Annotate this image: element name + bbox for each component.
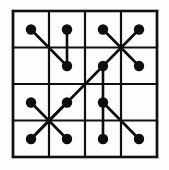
dot-grid-diagram: [0, 0, 169, 170]
node-dot-r1c1: [26, 24, 36, 34]
diagram-canvas: [0, 0, 169, 170]
node-dot-r2c3: [98, 61, 108, 71]
node-dot-r3c2: [62, 97, 72, 107]
node-dot-r1c2: [62, 24, 72, 34]
node-dot-r4c1: [26, 134, 36, 144]
node-dot-r4c2: [62, 134, 72, 144]
node-dot-r3c3: [98, 97, 108, 107]
node-dot-r4c3: [98, 134, 108, 144]
node-dot-r3c1: [26, 97, 36, 107]
node-dot-r1c4: [134, 24, 144, 34]
node-dot-r1c3: [98, 24, 108, 34]
node-dot-r2c2: [62, 61, 72, 71]
node-dot-r2c4: [134, 61, 144, 71]
node-dot-r4c4: [134, 134, 144, 144]
